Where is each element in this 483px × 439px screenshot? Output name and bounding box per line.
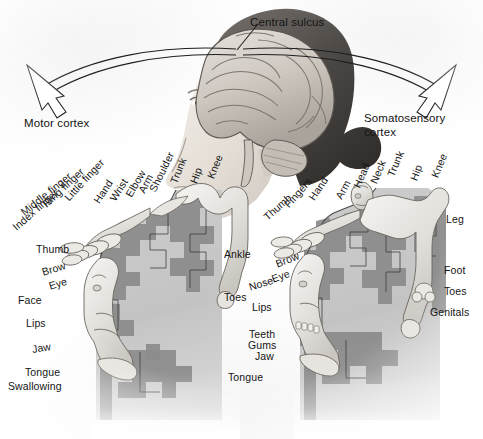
somatosensory-label-jaw: Jaw — [255, 350, 274, 362]
motor-label-tongue: Tongue — [25, 366, 60, 378]
motor-label-thumb: Thumb — [36, 243, 69, 255]
somatosensory-label-foot: Foot — [444, 264, 465, 276]
homunculus-figure: Central sulcus Motor cortex Somatosensor… — [0, 0, 483, 439]
motor-label-ankle: Ankle — [224, 248, 251, 260]
motor-cortex-label: Motor cortex — [24, 117, 89, 129]
somatosensory-label-toes: Toes — [444, 285, 467, 297]
somatosensory-label-tongue: Tongue — [228, 371, 263, 383]
motor-label-toes: Toes — [224, 291, 247, 303]
somatosensory-cortex-label-line2: cortex — [364, 126, 396, 138]
somatosensory-label-lips: Lips — [252, 301, 272, 313]
somatosensory-label-leg: Leg — [446, 213, 464, 225]
motor-label-lips: Lips — [26, 317, 46, 329]
somatosensory-cortex-label-line1: Somatosensory — [364, 112, 445, 124]
central-sulcus-label: Central sulcus — [250, 16, 324, 28]
motor-label-face: Face — [18, 294, 42, 306]
motor-label-swallowing: Swallowing — [8, 380, 62, 392]
somatosensory-label-genitals: Genitals — [430, 306, 469, 318]
